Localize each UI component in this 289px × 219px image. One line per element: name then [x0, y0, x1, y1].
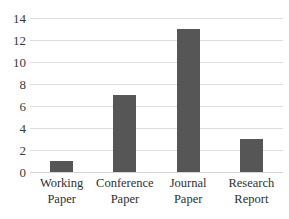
y-axis-tick-label: 12: [0, 34, 26, 47]
y-axis-tick-label: 0: [0, 166, 26, 179]
category-label-line-1: Journal: [157, 176, 220, 192]
bar[interactable]: [113, 95, 136, 172]
bar-chart: 02468101214 WorkingPaperConferencePaperJ…: [0, 0, 289, 219]
gridline: [30, 40, 283, 41]
category-label-line-2: Report: [220, 192, 283, 208]
y-axis-tick-label: 10: [0, 56, 26, 69]
plot-area: [30, 18, 283, 172]
category-label-line-2: Paper: [157, 192, 220, 208]
gridline: [30, 84, 283, 85]
category-label-line-1: Working: [30, 176, 93, 192]
category-label-line-2: Paper: [30, 192, 93, 208]
gridline: [30, 128, 283, 129]
gridline: [30, 172, 283, 173]
y-axis-tick-label: 6: [0, 100, 26, 113]
y-axis-tick-label: 14: [0, 12, 26, 25]
category-label-line-2: Paper: [93, 192, 156, 208]
gridline: [30, 62, 283, 63]
x-axis-category-label: WorkingPaper: [30, 176, 93, 207]
bar[interactable]: [240, 139, 263, 172]
y-axis-tick-label: 8: [0, 78, 26, 91]
gridline: [30, 106, 283, 107]
y-axis-tick-label: 2: [0, 144, 26, 157]
y-axis-tick-label: 4: [0, 122, 26, 135]
category-label-line-1: Conference: [93, 176, 156, 192]
gridline: [30, 18, 283, 19]
x-axis-category-label: ConferencePaper: [93, 176, 156, 207]
x-axis-category-label: JournalPaper: [157, 176, 220, 207]
category-label-line-1: Research: [220, 176, 283, 192]
x-axis-category-label: ResearchReport: [220, 176, 283, 207]
bar[interactable]: [177, 29, 200, 172]
bar[interactable]: [50, 161, 73, 172]
